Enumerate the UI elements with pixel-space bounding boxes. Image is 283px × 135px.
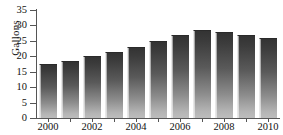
y-tick-label: 10 bbox=[17, 80, 28, 93]
x-tick-label: 2004 bbox=[116, 121, 156, 132]
bar bbox=[215, 32, 232, 118]
bar bbox=[83, 56, 100, 118]
x-tick bbox=[202, 118, 203, 122]
bar bbox=[149, 41, 166, 118]
x-tick-label: 2008 bbox=[204, 121, 244, 132]
y-tick: 25 bbox=[30, 41, 37, 42]
y-tick-label: 25 bbox=[17, 34, 28, 47]
x-tick bbox=[70, 118, 71, 122]
x-tick-label: 2000 bbox=[28, 121, 68, 132]
x-tick-label: 2010 bbox=[248, 121, 283, 132]
bar bbox=[39, 64, 56, 118]
y-tick-label: 5 bbox=[22, 96, 27, 109]
y-tick: 30 bbox=[30, 25, 37, 26]
plot-area bbox=[37, 10, 279, 118]
bar bbox=[193, 30, 210, 118]
y-tick: 35 bbox=[30, 10, 37, 11]
y-tick-label: 35 bbox=[17, 3, 28, 16]
y-tick: 10 bbox=[30, 87, 37, 88]
y-tick: 5 bbox=[30, 103, 37, 104]
y-tick-label: 0 bbox=[22, 111, 27, 124]
x-tick-label: 2006 bbox=[160, 121, 200, 132]
x-tick-label: 2002 bbox=[72, 121, 112, 132]
bar bbox=[61, 61, 78, 118]
x-tick bbox=[246, 118, 247, 122]
y-tick-label: 20 bbox=[17, 49, 28, 62]
bar bbox=[237, 35, 254, 118]
y-tick-label: 30 bbox=[17, 18, 28, 31]
bar bbox=[127, 47, 144, 118]
x-tick bbox=[158, 118, 159, 122]
bar bbox=[105, 52, 122, 118]
bar-chart: Gallons 05101520253035 20002002200420062… bbox=[0, 0, 283, 135]
bar bbox=[171, 35, 188, 118]
y-tick: 15 bbox=[30, 72, 37, 73]
y-tick: 20 bbox=[30, 56, 37, 57]
y-tick-label: 15 bbox=[17, 65, 28, 78]
x-tick bbox=[114, 118, 115, 122]
bar bbox=[259, 38, 276, 118]
y-tick: 0 bbox=[30, 118, 37, 119]
